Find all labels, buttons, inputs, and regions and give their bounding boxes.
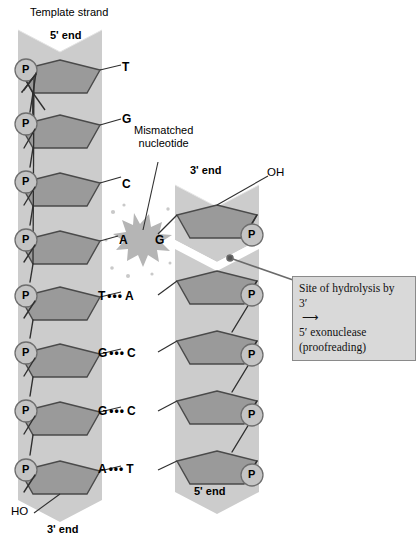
base-pair-row: G•••C: [98, 346, 136, 360]
base-letter-mismatched: G: [155, 233, 164, 247]
callout-line-2: 3′⟶5′ exonuclease: [299, 296, 409, 340]
new-strand-5prime-end-label: 5' end: [194, 485, 225, 497]
phosphate-label: P: [22, 63, 29, 75]
phosphate-label: P: [248, 288, 255, 300]
base-letter-template: G: [98, 404, 107, 418]
phosphate-label: P: [22, 404, 29, 416]
template-hydroxyl-label: HO: [11, 505, 28, 519]
base-letter-new: A: [125, 289, 134, 303]
template-3prime-end-label: 3' end: [47, 523, 78, 535]
mismatch-label-line2: nucleotide: [134, 137, 193, 150]
base-letter-template: G: [122, 112, 131, 126]
template-5prime-end-label: 5' end: [50, 29, 81, 41]
phosphate-label: P: [22, 289, 29, 301]
arrow-icon: ⟶: [299, 310, 409, 325]
base-letter-template: G: [98, 346, 107, 360]
base-letter-new: C: [127, 346, 136, 360]
phosphate-label: P: [22, 463, 29, 475]
callout-5prime-exonuclease: 5′ exonuclease: [299, 325, 409, 340]
base-letter-new: C: [127, 404, 136, 418]
mismatch-label-line1: Mismatched: [134, 124, 193, 137]
phosphate-label: P: [22, 233, 29, 245]
callout-line-3: (proofreading): [299, 340, 409, 355]
phosphate-label: P: [248, 348, 255, 360]
hydrogen-bond-dots: •••: [107, 404, 127, 418]
base-letter-template: T: [122, 60, 129, 74]
mismatch-leader-line: [143, 162, 158, 230]
callout-3prime: 3′: [299, 296, 409, 311]
hydrogen-bond-dots: •••: [105, 289, 125, 303]
base-letter-new: T: [126, 462, 133, 476]
callout-line-1: Site of hydrolysis by: [299, 281, 409, 296]
figure-canvas: Template strand 5' end 3' end HO 3' end …: [0, 0, 418, 555]
base-letter-template: C: [122, 177, 131, 191]
phosphate-label: P: [22, 117, 29, 129]
base-pair-row: T•••A: [98, 289, 134, 303]
base-connector-lines-new: [158, 215, 177, 470]
template-strand-label: Template strand: [30, 6, 108, 19]
new-strand-3prime-end-label: 3' end: [190, 164, 221, 176]
base-pair-row: G•••C: [98, 404, 136, 418]
base-pair-row: A•••T: [98, 462, 134, 476]
hydrolysis-callout-box: Site of hydrolysis by 3′⟶5′ exonuclease …: [292, 276, 416, 361]
mismatch-burst-icon: [105, 203, 178, 278]
phosphate-label: P: [248, 468, 255, 480]
phosphate-label: P: [22, 175, 29, 187]
hydrogen-bond-dots: •••: [107, 346, 127, 360]
base-letter-template: A: [98, 462, 107, 476]
phosphate-label: P: [248, 408, 255, 420]
hydrogen-bond-dots: •••: [107, 462, 127, 476]
phosphate-label: P: [248, 228, 255, 240]
mismatch-label: Mismatched nucleotide: [134, 124, 193, 150]
phosphate-label: P: [22, 346, 29, 358]
new-strand-hydroxyl-label: OH: [267, 166, 284, 180]
base-letter-template: A: [119, 233, 128, 247]
